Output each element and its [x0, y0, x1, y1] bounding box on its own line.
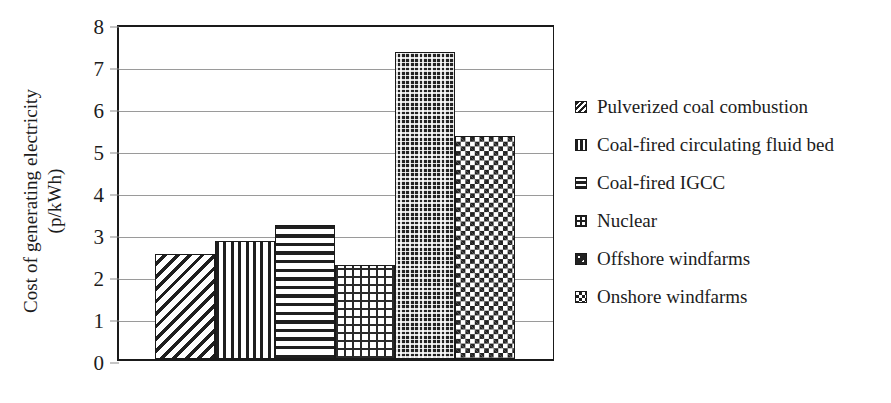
- y-axis-tick-mark: [110, 111, 119, 112]
- bar-coal-fired-igcc: [275, 225, 335, 359]
- y-axis-tick: 4: [94, 185, 120, 206]
- y-axis-tick: 0: [94, 353, 120, 374]
- legend-item: Offshore windfarms: [575, 240, 891, 278]
- y-axis-tick: 6: [94, 101, 120, 122]
- legend-swatch-icon: [575, 177, 587, 189]
- bar-onshore-windfarms: [455, 136, 515, 359]
- legend-item: Onshore windfarms: [575, 278, 891, 316]
- y-axis-tick-mark: [110, 321, 119, 322]
- bars-group: [119, 27, 553, 359]
- y-axis-tick: 5: [94, 143, 120, 164]
- legend-item: Coal-fired circulating fluid bed: [575, 126, 891, 164]
- bar-coal-fired-circulating-fluid-bed: [215, 241, 275, 359]
- y-axis-tick-label: 2: [94, 269, 111, 290]
- y-axis-title: Cost of generating electricity (p/kWh): [19, 31, 79, 371]
- legend: Pulverized coal combustionCoal-fired cir…: [575, 88, 891, 316]
- y-axis-tick-label: 1: [94, 311, 111, 332]
- bar-offshore-windfarms: [395, 52, 455, 359]
- y-axis-tick: 8: [94, 17, 120, 38]
- legend-item: Pulverized coal combustion: [575, 88, 891, 126]
- legend-item-label: Onshore windfarms: [597, 286, 747, 308]
- y-axis-tick-mark: [110, 27, 119, 28]
- bar-chart-figure: Cost of generating electricity (p/kWh) 0…: [0, 0, 891, 403]
- legend-swatch-icon: [575, 291, 587, 303]
- bar-pulverized-coal-combustion: [155, 254, 215, 359]
- legend-item-label: Coal-fired IGCC: [597, 172, 725, 194]
- y-axis-tick-label: 6: [94, 101, 111, 122]
- legend-item-label: Offshore windfarms: [597, 248, 750, 270]
- legend-item-label: Pulverized coal combustion: [597, 96, 808, 118]
- legend-item-label: Nuclear: [597, 210, 657, 232]
- plot-area: 012345678: [117, 25, 554, 361]
- y-axis-tick-mark: [110, 363, 119, 364]
- y-axis-tick-mark: [110, 153, 119, 154]
- legend-swatch-icon: [575, 139, 587, 151]
- bar-nuclear: [335, 265, 395, 360]
- legend-item: Nuclear: [575, 202, 891, 240]
- legend-swatch-icon: [575, 253, 587, 265]
- y-axis-tick-mark: [110, 279, 119, 280]
- y-axis-tick: 3: [94, 227, 120, 248]
- y-axis-tick-mark: [110, 69, 119, 70]
- legend-swatch-icon: [575, 215, 587, 227]
- y-axis-tick: 1: [94, 311, 120, 332]
- y-axis-tick-label: 7: [94, 59, 111, 80]
- y-axis-tick-label: 4: [94, 185, 111, 206]
- y-axis-tick-label: 0: [94, 353, 111, 374]
- y-axis-tick: 2: [94, 269, 120, 290]
- legend-item-label: Coal-fired circulating fluid bed: [597, 134, 834, 156]
- y-axis-tick: 7: [94, 59, 120, 80]
- y-axis-tick-label: 5: [94, 143, 111, 164]
- y-axis-tick-label: 3: [94, 227, 111, 248]
- y-axis-tick-label: 8: [94, 17, 111, 38]
- legend-swatch-icon: [575, 101, 587, 113]
- legend-item: Coal-fired IGCC: [575, 164, 891, 202]
- y-axis-tick-mark: [110, 195, 119, 196]
- y-axis-tick-mark: [110, 237, 119, 238]
